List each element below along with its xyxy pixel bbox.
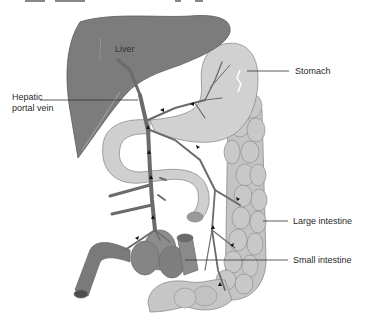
stomach-label: Stomach [295, 66, 331, 77]
hepatic-portal-vein-label: Hepatic portal vein [12, 92, 56, 114]
small-intestine-label: Small intestine [293, 255, 352, 266]
large-intestine-label: Large intestine [293, 216, 352, 227]
liver-label: Liver [115, 44, 135, 55]
portal-circulation-diagram [0, 0, 367, 326]
